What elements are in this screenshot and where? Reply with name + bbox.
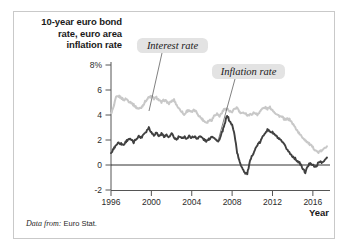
y-axis: 8%6420-2 <box>90 60 111 195</box>
y-axis-tick-label: 0 <box>97 160 102 170</box>
figure-container: 10-year euro bond rate, euro area inflat… <box>0 0 348 251</box>
source-note: Data from: Euro Stat. <box>26 219 97 228</box>
source-note-lead: Data from: <box>26 219 61 228</box>
annotation-label-interest-rate: Interest rate <box>146 40 199 51</box>
x-axis-tick-labels: 199620002004200820122016 <box>102 197 323 207</box>
x-axis: 199620002004200820122016 <box>102 191 330 208</box>
annotation-label-inflation-rate: Inflation rate <box>220 66 277 77</box>
x-axis-label: Year <box>309 207 329 218</box>
source-note-body: Euro Stat. <box>64 219 97 228</box>
y-axis-tick-label: 2 <box>97 135 102 145</box>
y-axis-tick-label: 6 <box>97 85 102 95</box>
x-axis-tick-label: 2012 <box>263 197 282 207</box>
data-series-group <box>111 96 327 175</box>
y-axis-tick-label: -2 <box>94 185 102 195</box>
x-axis-tick-label: 1996 <box>102 197 121 207</box>
series-line-interest-rate <box>111 96 327 153</box>
y-axis-tick-label: 8% <box>90 60 103 70</box>
x-axis-tick-label: 2000 <box>142 197 161 207</box>
series-annotations: Interest rateInflation rate <box>137 38 285 141</box>
y-axis-ticks <box>106 65 112 190</box>
x-axis-ticks <box>111 191 313 197</box>
annotation-leader-line <box>149 53 162 111</box>
chart-plot: 8%6420-2 199620002004200820122016 Intere… <box>0 0 348 251</box>
x-axis-tick-label: 2016 <box>303 197 322 207</box>
y-axis-tick-label: 4 <box>97 110 102 120</box>
y-axis-tick-labels: 8%6420-2 <box>90 60 103 195</box>
x-axis-tick-label: 2004 <box>182 197 201 207</box>
x-axis-tick-label: 2008 <box>223 197 242 207</box>
